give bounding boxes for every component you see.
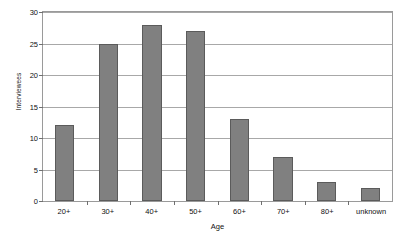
bar-slot: [174, 12, 218, 201]
bar-series: [43, 12, 392, 201]
x-tick-mark: [130, 201, 131, 205]
y-tick-label: 30: [30, 8, 38, 17]
y-axis-title: Interviewees: [15, 52, 22, 132]
x-axis-title: Age: [42, 222, 393, 231]
bar-slot: [261, 12, 305, 201]
bar-slot: [218, 12, 262, 201]
y-tick-label: 25: [30, 39, 38, 48]
y-tick-label: 0: [34, 197, 38, 206]
y-tick-label: 10: [30, 134, 38, 143]
y-tick-label: 20: [30, 71, 38, 80]
bar-slot: [130, 12, 174, 201]
x-tick-mark: [174, 201, 175, 205]
plot-area: 051015202530: [42, 11, 393, 202]
bar-slot: [348, 12, 392, 201]
x-tick-label: 20+: [42, 207, 86, 216]
x-tick-label: 70+: [261, 207, 305, 216]
x-tick-mark: [348, 201, 349, 205]
y-tick-label: 15: [30, 102, 38, 111]
x-axis-tick-labels: 20+30+40+50+60+70+80+unknown: [42, 207, 393, 216]
x-tick-label: 60+: [218, 207, 262, 216]
bar-slot: [87, 12, 131, 201]
x-tick-mark: [218, 201, 219, 205]
x-tick-mark: [305, 201, 306, 205]
x-tick-label: 50+: [174, 207, 218, 216]
x-tick-label: 80+: [305, 207, 349, 216]
bar-slot: [305, 12, 349, 201]
x-tick-label: 30+: [86, 207, 130, 216]
bar: [142, 25, 161, 201]
x-tick-label: 40+: [130, 207, 174, 216]
bar: [273, 157, 292, 201]
x-tick-mark: [87, 201, 88, 205]
bar: [186, 31, 205, 201]
bar: [317, 182, 336, 201]
bar: [361, 188, 380, 201]
x-tick-label: unknown: [349, 207, 393, 216]
bar: [55, 125, 74, 201]
bar-slot: [43, 12, 87, 201]
bar: [99, 44, 118, 202]
y-tick-mark: [39, 201, 43, 202]
y-tick-label: 5: [34, 165, 38, 174]
bar-chart: Interviewees 051015202530 20+30+40+50+60…: [0, 0, 407, 238]
bar: [230, 119, 249, 201]
x-tick-mark: [261, 201, 262, 205]
